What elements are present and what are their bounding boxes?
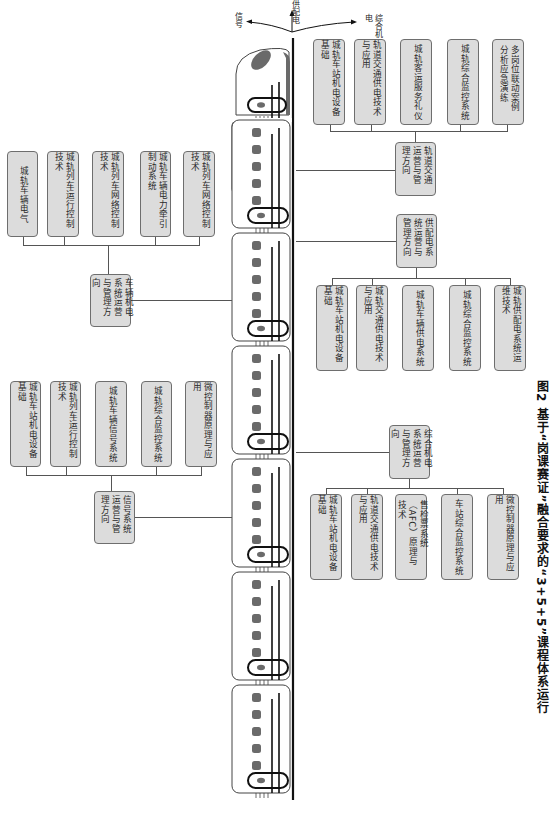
course-box: 城轨车辆供电系统 <box>402 285 434 371</box>
label-power-supply-direction: 供配电 <box>289 0 299 24</box>
course-box: 微控制器原理与应用 <box>185 381 217 467</box>
hub-rail-transit-operation: 轨道交通运营与管理方向 <box>395 142 436 196</box>
course-box: 轨道交通供电技术与应用 <box>351 494 383 580</box>
label-integrated-electromechanical-direction: 综合机电 <box>360 14 382 38</box>
course-box: 城轨列车网络控制技术 <box>92 151 124 237</box>
hub-power-supply: 供配电系统运营与管理方向 <box>396 214 437 268</box>
course-box: 城轨综合监控系统 <box>141 381 172 467</box>
course-box: 微控制器原理与应用 <box>487 494 519 580</box>
course-box: 城轨交通供电技术与应用 <box>356 285 388 371</box>
course-box: 城轨综合监控系统 <box>449 285 481 371</box>
course-box: 轨道交通供电技术与应用 <box>354 39 386 125</box>
hub-vehicle-electromechanical: 车辆机电系统运营与管理方向 <box>90 274 131 327</box>
course-box: 城轨车辆信号系统 <box>95 381 127 467</box>
label-signal-direction: 信号 <box>232 12 242 28</box>
course-box: 城轨车站机电设备基础 <box>10 381 41 467</box>
hub-signal-system: 信号系统运营与管理方向 <box>94 491 135 544</box>
course-box: 城轨列车运行控制技术 <box>50 381 81 467</box>
course-box: 城轨车辆电力牵引制动系统 <box>140 151 171 237</box>
course-box: 城轨客运服务礼仪 <box>400 39 432 125</box>
figure-caption: 图2 基于“岗课赛证”融合要求的“3+5+5”课程体系运行 <box>533 380 550 714</box>
course-box: 城轨列车运行控制技术 <box>47 151 79 237</box>
train-cars <box>0 0 552 839</box>
course-box: 城轨车站机电设备基础 <box>313 39 345 125</box>
course-box: 售检票系统（AFC）原理与技术 <box>395 494 427 580</box>
course-box: 城轨车站机电设备基础 <box>316 285 348 371</box>
course-box: 城轨供配电系统运维技术 <box>494 285 526 371</box>
hub-integrated-electromechanical: 综合机电系统运营与管理方向 <box>389 425 430 479</box>
course-box: 城轨车辆电气 <box>7 151 38 237</box>
course-box: 车站综合监控系统 <box>441 494 473 580</box>
course-box: 城轨综合监控系统 <box>447 39 479 125</box>
course-box: 城轨列车网络控制技术 <box>183 151 215 237</box>
course-box: 城轨车站机电设备基础 <box>310 494 342 580</box>
course-box: 多岗位联动案例分析应急演练 <box>492 39 524 125</box>
